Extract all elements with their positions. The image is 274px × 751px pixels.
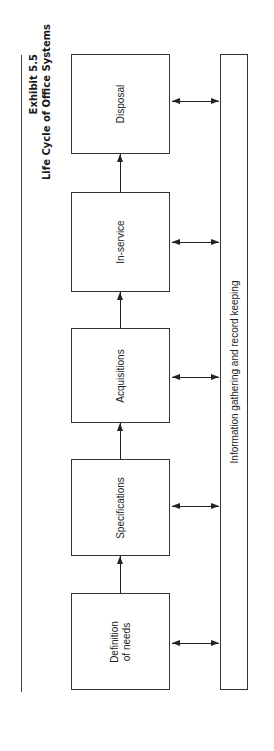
record-keeping-bar: Information gathering and record keeping <box>220 54 248 690</box>
stage-box-in-service: In-service <box>71 192 170 292</box>
flow-arrow-up-icon <box>120 556 121 593</box>
stage-label: Specifications <box>115 477 127 539</box>
flow-arrow-up-icon <box>120 292 121 328</box>
record-keeping-label: Information gathering and record keeping <box>229 281 240 464</box>
double-arrow-icon <box>172 506 219 507</box>
double-arrow-icon <box>172 242 219 243</box>
double-arrow-icon <box>172 643 219 644</box>
double-arrow-icon <box>172 377 219 378</box>
stage-box-disposal: Disposal <box>71 54 170 154</box>
flow-arrow-up-icon <box>120 154 121 192</box>
stage-label: Acquisitions <box>115 349 127 402</box>
double-arrow-icon <box>172 101 219 102</box>
stage-box-specifications: Specifications <box>71 459 170 556</box>
stage-box-acquisitions: Acquisitions <box>71 328 170 423</box>
stage-label: In-service <box>115 220 127 263</box>
diagram-title: Life Cycle of Office Systems <box>41 54 53 180</box>
stage-label: Disposal <box>115 85 127 123</box>
stage-label: Definition of needs <box>109 621 133 663</box>
exhibit-number: Exhibit 5.5 <box>28 54 40 116</box>
title-rule <box>21 55 22 692</box>
stage-box-definition-of-needs: Definition of needs <box>71 593 170 690</box>
flow-arrow-up-icon <box>120 423 121 459</box>
